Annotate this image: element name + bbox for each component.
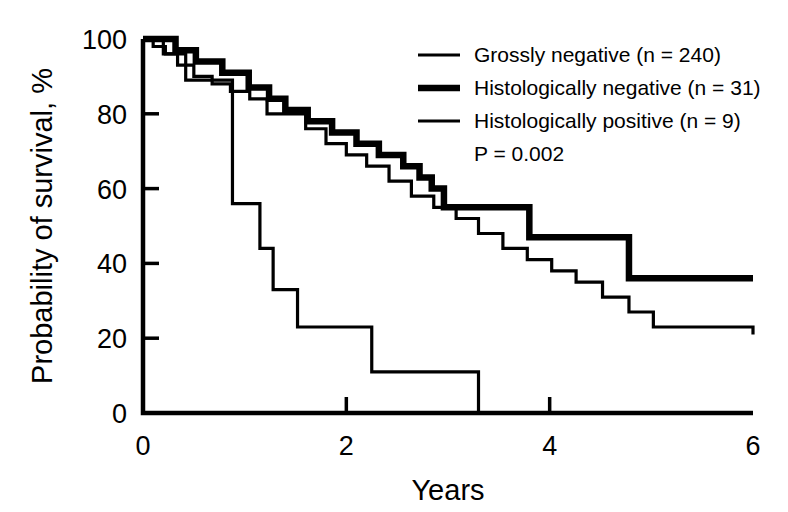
y-axis-title: Probability of survival, % bbox=[26, 68, 58, 384]
y-tick-label: 20 bbox=[97, 324, 127, 354]
x-tick-label: 0 bbox=[135, 431, 150, 461]
x-axis-title: Years bbox=[411, 474, 484, 506]
x-axis-tick-labels: 0246 bbox=[135, 431, 760, 461]
y-tick-label: 100 bbox=[82, 25, 127, 55]
chart-legend: Grossly negative (n = 240)Histologically… bbox=[418, 43, 761, 165]
p-value-annotation: P = 0.002 bbox=[474, 142, 564, 165]
survival-chart-figure: 020406080100 0246 Probability of surviva… bbox=[0, 0, 788, 512]
y-tick-label: 60 bbox=[97, 175, 127, 205]
y-axis-tick-labels: 020406080100 bbox=[82, 25, 127, 429]
y-axis-ticks bbox=[143, 114, 159, 338]
y-tick-label: 80 bbox=[97, 100, 127, 130]
legend-item-label: Histologically positive (n = 9) bbox=[474, 109, 741, 132]
legend-item-label: Histologically negative (n = 31) bbox=[474, 76, 761, 99]
y-tick-label: 0 bbox=[112, 399, 127, 429]
y-tick-label: 40 bbox=[97, 249, 127, 279]
survival-curve-histologically-negative bbox=[143, 39, 753, 278]
x-tick-label: 4 bbox=[542, 431, 557, 461]
legend-item-label: Grossly negative (n = 240) bbox=[474, 43, 721, 66]
x-tick-label: 2 bbox=[339, 431, 354, 461]
chart-canvas: 020406080100 0246 Probability of surviva… bbox=[0, 0, 788, 512]
x-axis-ticks bbox=[346, 397, 549, 413]
x-tick-label: 6 bbox=[745, 431, 760, 461]
